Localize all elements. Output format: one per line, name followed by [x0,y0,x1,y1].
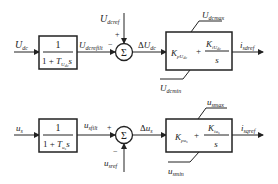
limit-max-label: Udcmax [202,10,224,21]
limit-max-label: usmax [207,97,224,108]
pi-plus: + [196,46,201,56]
minus-sign: − [113,147,118,156]
limit-max-leader [191,21,199,32]
output-label: isdref [240,40,256,51]
output-label: isqref [241,123,257,134]
control-diagram: Udc 1 1 + TUdcs Udcrefilt − Udcref + Σ Δ… [0,0,278,184]
filtered-label: usfilt [84,120,98,131]
reference-label-usref: usref [104,158,119,169]
limit-max-leader [198,108,206,119]
limit-min-label: Udcmin [160,83,181,94]
limit-min-label: usmin [168,166,184,177]
error-label: Δus [140,123,153,134]
dc-voltage-loop: Udc 1 1 + TUdcs Udcrefilt − Udcref + Σ Δ… [14,10,263,94]
pi-s: s [215,55,219,65]
sigma-icon: Σ [121,130,127,141]
pi-s: s [214,139,218,149]
limit-min-leader [190,152,199,162]
error-label: ΔUdc [138,40,156,51]
plus-sign: + [107,123,112,132]
pi-plus: + [194,130,199,140]
input-label-udc: Udc [15,39,28,51]
filtered-label: Udcrefilt [79,40,103,51]
minus-sign: − [108,40,113,49]
input-label-us: us [16,123,24,134]
reference-label-udcref: Udcref [100,13,121,25]
filter-numerator: 1 [56,39,61,50]
sigma-icon: Σ [121,47,127,58]
ac-voltage-loop: us 1 1 + Tuss usfilt + Σ − usref Δus Kpu… [14,97,263,177]
filter-numerator: 1 [56,122,61,133]
limit-min-leader [183,70,190,79]
plus-sign: + [115,30,120,39]
